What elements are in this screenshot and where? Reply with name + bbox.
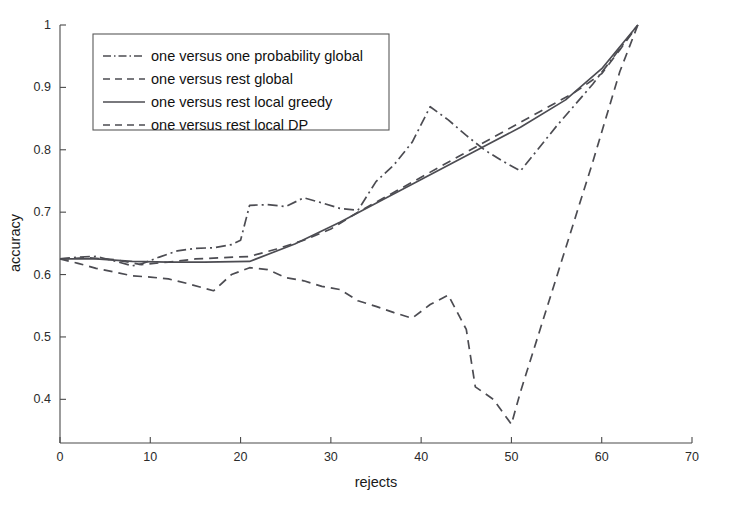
y-tick-label: 0.7	[34, 205, 51, 219]
legend-label-1: one versus one probability global	[151, 48, 363, 64]
legend-label-3: one versus rest local greedy	[151, 94, 333, 110]
y-tick-label: 1	[44, 18, 51, 32]
legend-label-4: one versus rest local DP	[151, 117, 308, 133]
x-tick-label: 70	[685, 450, 699, 464]
y-tick-label: 0.8	[34, 143, 51, 157]
y-tick-label: 0.9	[34, 80, 51, 94]
y-axis-title: accuracy	[7, 213, 23, 272]
accuracy-vs-rejects-line-chart: 010203040506070 0.40.50.60.70.80.91 reje…	[0, 0, 731, 506]
x-axis-title: rejects	[355, 474, 398, 490]
x-tick-label: 50	[504, 450, 518, 464]
chart-figure: 010203040506070 0.40.50.60.70.80.91 reje…	[0, 0, 731, 506]
x-tick-label: 30	[324, 450, 338, 464]
chart-legend: one versus one probability globalone ver…	[93, 34, 389, 133]
y-tick-label: 0.4	[34, 392, 51, 406]
x-tick-label: 40	[414, 450, 428, 464]
y-tick-label: 0.5	[34, 330, 51, 344]
x-tick-label: 60	[595, 450, 609, 464]
legend-label-2: one versus rest global	[151, 71, 293, 87]
y-tick-label: 0.6	[34, 268, 51, 282]
x-tick-label: 0	[57, 450, 64, 464]
x-tick-label: 10	[143, 450, 157, 464]
x-tick-label: 20	[234, 450, 248, 464]
